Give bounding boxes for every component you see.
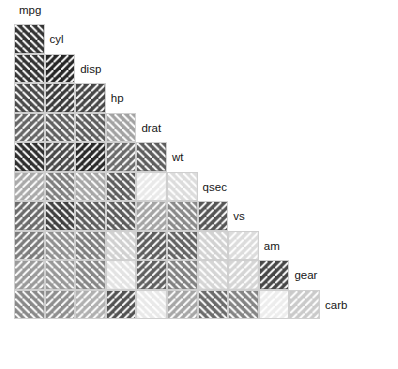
corr-cell-carb-gear [289, 290, 320, 320]
hatch-neg-icon [168, 173, 197, 201]
hatch-pos-icon [15, 114, 44, 142]
hatch-neg-icon [107, 232, 136, 260]
variable-label-cyl: cyl [50, 33, 64, 46]
hatch-neg-icon [76, 261, 105, 289]
corr-cell-drat-cyl [45, 113, 76, 143]
hatch-neg-icon [107, 202, 136, 230]
corr-cell-gear-cyl [45, 260, 76, 290]
hatch-neg-icon [46, 261, 75, 289]
hatch-neg-icon [107, 114, 136, 142]
correlation-matrix-figure: mpgcyldisphpdratwtqsecvsamgearcarb [0, 0, 398, 369]
corr-cell-am-vs [228, 231, 259, 261]
corr-cell-qsec-hp [106, 172, 137, 202]
corr-cell-vs-hp [106, 201, 137, 231]
corr-cell-vs-cyl [45, 201, 76, 231]
corr-cell-disp-mpg [14, 54, 45, 84]
hatch-pos-icon [260, 291, 289, 319]
variable-label-carb: carb [325, 299, 347, 312]
variable-label-vs: vs [233, 210, 245, 223]
corr-cell-am-mpg [14, 231, 45, 261]
hatch-neg-icon [46, 114, 75, 142]
corr-cell-drat-disp [75, 113, 106, 143]
hatch-pos-icon [15, 232, 44, 260]
hatch-pos-icon [15, 202, 44, 230]
hatch-neg-icon [15, 84, 44, 112]
corr-cell-carb-mpg [14, 290, 45, 320]
hatch-neg-icon [15, 143, 44, 171]
hatch-neg-icon [107, 173, 136, 201]
variable-label-wt: wt [172, 151, 184, 164]
corr-cell-vs-wt [167, 201, 198, 231]
corr-cell-drat-hp [106, 113, 137, 143]
hatch-neg-icon [76, 114, 105, 142]
hatch-pos-icon [229, 232, 258, 260]
variable-label-am: am [264, 240, 280, 253]
corr-cell-hp-mpg [14, 83, 45, 113]
hatch-neg-icon [168, 232, 197, 260]
hatch-neg-icon [76, 202, 105, 230]
hatch-pos-icon [290, 291, 319, 319]
corr-cell-cyl-mpg [14, 24, 45, 54]
corr-cell-carb-drat [136, 290, 167, 320]
hatch-neg-icon [199, 291, 228, 319]
corr-cell-carb-cyl [45, 290, 76, 320]
hatch-pos-icon [107, 143, 136, 171]
hatch-pos-icon [76, 291, 105, 319]
corr-cell-disp-cyl [45, 54, 76, 84]
corr-cell-carb-hp [106, 290, 137, 320]
corr-cell-carb-disp [75, 290, 106, 320]
hatch-neg-icon [137, 143, 166, 171]
hatch-neg-icon [46, 202, 75, 230]
hatch-pos-icon [76, 84, 105, 112]
corr-cell-wt-mpg [14, 142, 45, 172]
corr-cell-gear-qsec [198, 260, 229, 290]
corr-cell-qsec-drat [136, 172, 167, 202]
corr-cell-am-disp [75, 231, 106, 261]
corr-cell-gear-disp [75, 260, 106, 290]
hatch-neg-icon [199, 261, 228, 289]
variable-label-mpg: mpg [19, 4, 41, 17]
hatch-neg-icon [46, 173, 75, 201]
hatch-neg-icon [76, 232, 105, 260]
corr-cell-am-wt [167, 231, 198, 261]
corr-cell-vs-mpg [14, 201, 45, 231]
hatch-pos-icon [229, 261, 258, 289]
hatch-pos-icon [76, 143, 105, 171]
hatch-neg-icon [15, 55, 44, 83]
corr-cell-gear-vs [228, 260, 259, 290]
corr-cell-gear-drat [136, 260, 167, 290]
hatch-pos-icon [260, 261, 289, 289]
corr-cell-am-drat [136, 231, 167, 261]
variable-label-disp: disp [80, 63, 101, 76]
corr-cell-gear-wt [167, 260, 198, 290]
hatch-pos-icon [46, 84, 75, 112]
corr-cell-carb-qsec [198, 290, 229, 320]
corr-cell-vs-drat [136, 201, 167, 231]
corr-cell-wt-hp [106, 142, 137, 172]
hatch-neg-icon [199, 232, 228, 260]
hatch-pos-icon [15, 261, 44, 289]
corr-cell-qsec-mpg [14, 172, 45, 202]
variable-label-qsec: qsec [203, 181, 227, 194]
hatch-pos-icon [15, 173, 44, 201]
variable-label-gear: gear [294, 269, 317, 282]
corr-cell-wt-cyl [45, 142, 76, 172]
corr-cell-gear-mpg [14, 260, 45, 290]
hatch-pos-icon [168, 291, 197, 319]
corr-cell-hp-disp [75, 83, 106, 113]
hatch-pos-icon [46, 55, 75, 83]
hatch-pos-icon [137, 173, 166, 201]
hatch-neg-icon [107, 261, 136, 289]
hatch-pos-icon [199, 202, 228, 230]
corr-cell-wt-drat [136, 142, 167, 172]
hatch-neg-icon [137, 291, 166, 319]
corr-cell-hp-cyl [45, 83, 76, 113]
hatch-neg-icon [15, 291, 44, 319]
corr-cell-qsec-wt [167, 172, 198, 202]
hatch-neg-icon [168, 261, 197, 289]
variable-label-hp: hp [111, 92, 124, 105]
corr-cell-carb-am [259, 290, 290, 320]
corr-cell-qsec-disp [75, 172, 106, 202]
corr-cell-wt-disp [75, 142, 106, 172]
hatch-neg-icon [15, 25, 44, 53]
